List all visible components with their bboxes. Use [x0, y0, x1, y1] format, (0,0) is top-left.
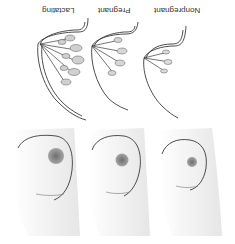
- cross-section-nonpregnant: [144, 26, 186, 118]
- external-view-lactating: [13, 128, 80, 236]
- external-view-pregnant: [89, 128, 150, 236]
- areola-lactating: [48, 148, 64, 164]
- illustration: [0, 0, 235, 244]
- label-pregnant: Pregnant: [98, 6, 130, 15]
- cross-section-lactating: [38, 18, 88, 120]
- label-nonpregnant: Nonpregnant: [154, 6, 200, 15]
- cross-section-pregnant: [92, 22, 138, 110]
- areola-nonpregnant: [187, 157, 197, 167]
- breast-changes-figure: Lactating Pregnant Nonpregnant: [0, 0, 235, 244]
- areola-pregnant: [116, 154, 129, 167]
- label-lactating: Lactating: [42, 6, 74, 15]
- external-view-nonpregnant: [159, 128, 222, 236]
